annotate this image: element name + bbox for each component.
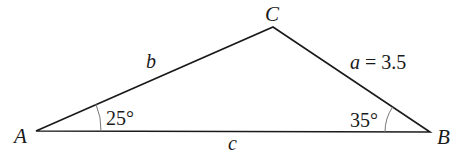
angle-arc-b [385, 107, 393, 132]
side-label-b: b [146, 50, 156, 72]
angle-arc-a [96, 104, 101, 131]
triangle-diagram: A B C b c a = 3.5 25° 35° [0, 0, 457, 165]
side-a-value: 3.5 [381, 51, 406, 73]
side-a-var: a [350, 51, 360, 73]
angle-label-a: 25° [106, 107, 134, 129]
vertex-label-a: A [12, 124, 27, 148]
side-label-c: c [228, 132, 237, 154]
vertex-label-c: C [265, 2, 280, 26]
angle-label-b: 35° [350, 109, 378, 131]
vertex-label-b: B [437, 125, 450, 149]
side-label-a: a = 3.5 [350, 51, 406, 73]
side-a-eq: = [360, 51, 381, 73]
